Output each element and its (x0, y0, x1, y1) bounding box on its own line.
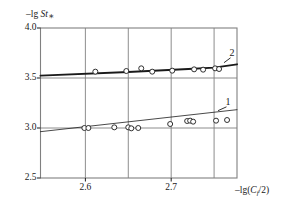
plot-border (41, 28, 238, 178)
axis-ticks (37, 28, 171, 182)
y-tick-label: 4.0 (1, 23, 37, 33)
data-point-1 (129, 126, 134, 131)
x-axis-label: –lg(Cf/2) (235, 186, 269, 197)
y-tick-label: 3.0 (1, 123, 37, 133)
plot-canvas (0, 0, 297, 209)
x-tick-label: 2.7 (151, 183, 191, 193)
data-point-2 (93, 69, 98, 74)
leader-line-2 (224, 58, 230, 63)
data-point-2 (217, 67, 222, 72)
data-point-1 (191, 119, 196, 124)
data-point-1 (86, 126, 91, 131)
data-point-2 (139, 66, 144, 71)
x-tick-label: 2.6 (65, 183, 105, 193)
data-point-2 (124, 69, 129, 74)
data-point-2 (150, 69, 155, 74)
y-tick-label: 2.5 (1, 173, 37, 183)
data-point-1 (168, 122, 173, 127)
data-point-1 (225, 118, 230, 123)
data-point-1 (136, 126, 141, 131)
data-point-2 (192, 67, 197, 72)
data-point-2 (170, 68, 175, 73)
leader-line-1 (218, 107, 226, 111)
y-axis-label: –lg St∗ (26, 10, 54, 21)
curve-label-1: 1 (225, 97, 230, 107)
y-tick-label: 3.5 (1, 73, 37, 83)
data-point-1 (112, 125, 117, 130)
chart-figure: –lg St∗ –lg(Cf/2) 4.03.53.02.52.62.7 12 (0, 0, 297, 209)
plot-frame (41, 28, 238, 178)
data-point-1 (214, 118, 219, 123)
data-point-2 (201, 67, 206, 72)
gridlines (41, 28, 238, 178)
series-line-2 (41, 64, 238, 75)
curve-label-2: 2 (230, 48, 235, 58)
data-series (41, 64, 238, 131)
